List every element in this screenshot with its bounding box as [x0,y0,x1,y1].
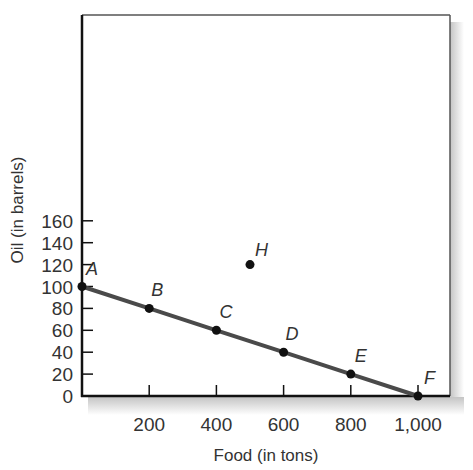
plot-frame [81,15,450,397]
y-tick-label: 160 [41,211,73,232]
point-f [414,392,423,401]
y-tick-label: 0 [62,386,73,407]
point-a [78,282,87,291]
point-label-f: F [424,368,436,388]
point-b [145,304,154,313]
ppf-line [82,287,418,397]
y-tick-label: 40 [52,342,73,363]
x-tick-label: 800 [335,414,367,435]
point-e [346,370,355,379]
y-tick-label: 60 [52,320,73,341]
x-axis-ticks: 2004006008001,000 [133,385,441,435]
point-d [279,348,288,357]
point-label-e: E [355,346,368,366]
x-tick-label: 1,000 [394,414,442,435]
x-tick-label: 600 [268,414,300,435]
point-label-b: B [151,280,163,300]
point-c [212,326,221,335]
y-tick-label: 100 [41,277,73,298]
y-tick-label: 120 [41,255,73,276]
x-axis-title: Food (in tons) [214,446,319,465]
point-label-a: A [85,259,98,279]
data-points: ABCDEFH [78,240,437,401]
point-label-d: D [286,324,299,344]
y-axis-title: Oil (in barrels) [8,157,27,264]
x-tick-label: 200 [133,414,165,435]
y-tick-label: 80 [52,298,73,319]
point-label-h: H [255,240,269,260]
point-h [246,260,255,269]
point-label-c: C [219,302,233,322]
x-tick-label: 400 [201,414,233,435]
ppf-chart: 020406080100120140160 2004006008001,000 … [0,0,473,470]
y-axis-ticks: 020406080100120140160 [41,211,93,407]
y-tick-label: 20 [52,364,73,385]
y-tick-label: 140 [41,233,73,254]
